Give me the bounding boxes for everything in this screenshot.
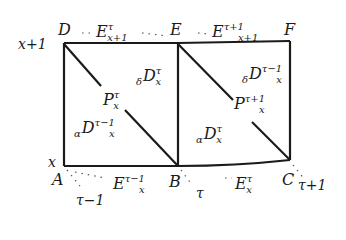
time-label-middle: τ bbox=[196, 186, 204, 200]
vertex-label-A: A bbox=[52, 172, 64, 188]
right-lower-death-label: αDτx bbox=[196, 126, 222, 142]
time-label-left: τ−1 bbox=[76, 193, 104, 207]
vertex-label-D: D bbox=[58, 22, 71, 38]
bottom-edge-left-label: Eτ−1x bbox=[113, 176, 145, 192]
right-upper-death-label: δDτ−1x bbox=[242, 66, 282, 82]
diag-right-lower bbox=[252, 122, 290, 160]
diag-left-upper bbox=[64, 44, 101, 86]
top-edge-left-label: Eτx+1 bbox=[96, 24, 128, 40]
vertex-label-E: E bbox=[170, 22, 182, 38]
vertex-label-C: C bbox=[282, 172, 294, 188]
left-population-label: Pτx bbox=[103, 92, 119, 108]
time-label-right: τ+1 bbox=[298, 178, 326, 192]
bottom-edge-right-label: Eτx bbox=[235, 176, 252, 192]
left-upper-death-label: δDτx bbox=[136, 68, 161, 84]
left-lower-death-label: αDτ−1x bbox=[74, 120, 115, 136]
top-edge-right-label: Eτ+1x+1 bbox=[212, 24, 258, 40]
edge-BC bbox=[178, 160, 290, 166]
right-population-label: Pτ+1x bbox=[234, 96, 265, 112]
edge-EF bbox=[178, 41, 290, 43]
age-label-bottom: x bbox=[48, 155, 56, 169]
age-label-top: x+1 bbox=[18, 37, 47, 51]
diag-right-upper bbox=[178, 44, 233, 100]
vertex-label-B: B bbox=[169, 174, 181, 190]
vertex-label-F: F bbox=[284, 22, 295, 38]
diag-left-lower bbox=[125, 110, 178, 166]
